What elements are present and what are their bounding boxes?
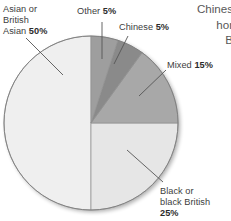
pie-label-mixed: Mixed 15% [167, 60, 213, 71]
pie-label-other: Other 5% [77, 6, 116, 17]
truncated-caption-line3: B [137, 32, 231, 48]
pie-label-black-line1: Black or [160, 186, 194, 196]
pie-slice-asian-or-british-asian [4, 36, 91, 210]
truncated-caption-line2: hor [137, 17, 231, 33]
pie-label-asian-percent: 50% [29, 26, 48, 36]
pie-label-black-percent: 25% [160, 208, 179, 218]
pie-label-mixed-name: Mixed [167, 60, 194, 70]
pie-label-black-or-black-british: Black or black British 25% [160, 186, 210, 220]
truncated-caption-line1: Chines [137, 1, 231, 17]
pie-label-asian-line2: British [3, 15, 29, 25]
pie-label-asian-line3: Asian [3, 26, 29, 36]
pie-label-mixed-percent: 15% [194, 60, 213, 70]
pie-label-asian-or-british-asian: Asian or British Asian 50% [3, 4, 47, 38]
truncated-caption: Chines hor B [137, 1, 231, 48]
pie-label-other-percent: 5% [103, 6, 116, 16]
pie-chart-figure: Asian or British Asian 50% Other 5% Chin… [0, 0, 231, 221]
pie-label-other-name: Other [77, 6, 103, 16]
pie-label-asian-line1: Asian or [3, 4, 37, 14]
pie-label-black-line2: black British [160, 197, 210, 207]
